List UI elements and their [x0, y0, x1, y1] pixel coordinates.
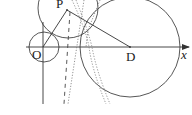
label-o: O — [32, 47, 41, 62]
point-p-dot — [66, 9, 68, 11]
geometry-diagram: P O D x — [0, 0, 192, 115]
label-d: D — [126, 49, 135, 64]
label-p: P — [56, 0, 63, 11]
segment-pd — [67, 10, 130, 47]
dotted-curve-1 — [76, 0, 110, 104]
dashed-line-1 — [64, 12, 70, 104]
label-x-axis: x — [180, 47, 187, 62]
point-d-dot — [129, 46, 131, 48]
